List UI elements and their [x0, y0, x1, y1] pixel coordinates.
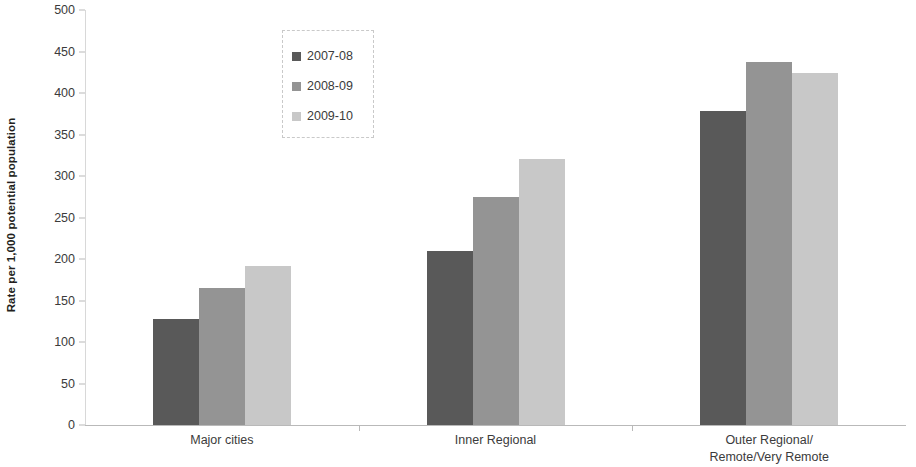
y-axis-title-text: Rate per 1,000 potential population — [5, 118, 17, 313]
y-axis-tick-label: 250 — [54, 211, 75, 225]
y-axis-tick-label: 350 — [54, 128, 75, 142]
y-axis-tick-label: 100 — [54, 335, 75, 349]
legend-item: 2007-08 — [292, 41, 373, 71]
legend-item: 2009-10 — [292, 101, 373, 131]
legend-item-label: 2009-10 — [307, 109, 353, 123]
x-axis-category-label: Inner Regional — [359, 432, 633, 449]
y-axis-tick-label: 50 — [61, 377, 75, 391]
y-axis-tick-label: 0 — [68, 418, 75, 432]
bar — [700, 111, 746, 425]
x-axis-category-separator — [632, 425, 633, 431]
plot-area — [85, 10, 906, 425]
x-axis-label-line: Inner Regional — [359, 432, 633, 449]
x-axis-label-line: Major cities — [85, 432, 359, 449]
chart-page: Rate per 1,000 potential population 5004… — [0, 0, 916, 467]
chart-legend: 2007-082008-092009-10 — [282, 30, 374, 138]
x-axis-category-separator — [359, 425, 360, 431]
legend-swatch-icon — [292, 82, 301, 91]
x-axis-line — [85, 425, 906, 426]
x-axis-category-label: Major cities — [85, 432, 359, 449]
bar — [792, 73, 838, 425]
y-axis-line — [85, 10, 86, 425]
x-axis-category-label: Outer Regional/Remote/Very Remote — [632, 432, 906, 466]
bar — [473, 197, 519, 425]
bar — [427, 251, 473, 425]
bar — [746, 62, 792, 425]
y-axis-tick-label: 150 — [54, 294, 75, 308]
bar — [245, 266, 291, 425]
bar — [153, 319, 199, 425]
bar — [199, 288, 245, 425]
y-axis-tick-label: 450 — [54, 45, 75, 59]
y-axis-tick-label: 300 — [54, 169, 75, 183]
bar — [519, 159, 565, 425]
y-axis-tick-label: 400 — [54, 86, 75, 100]
legend-item: 2008-09 — [292, 71, 373, 101]
x-axis-label-line: Outer Regional/ — [632, 432, 906, 449]
y-axis-tick-label: 200 — [54, 252, 75, 266]
legend-swatch-icon — [292, 112, 301, 121]
legend-swatch-icon — [292, 52, 301, 61]
legend-item-label: 2007-08 — [307, 49, 353, 63]
legend-item-label: 2008-09 — [307, 79, 353, 93]
y-axis-title: Rate per 1,000 potential population — [0, 0, 22, 430]
y-axis-tick-label: 500 — [54, 3, 75, 17]
x-axis-label-line: Remote/Very Remote — [632, 449, 906, 466]
y-axis: 500450400350300250200150100500 — [24, 10, 85, 425]
